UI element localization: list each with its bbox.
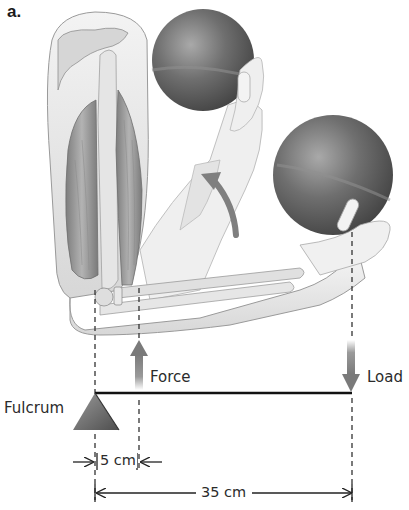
fulcrum-label: Fulcrum [4, 399, 64, 417]
fulcrum-triangle-icon [73, 393, 119, 430]
load-label: Load [367, 368, 403, 386]
raised-forearm [140, 101, 262, 300]
fulcrum-to-force-distance: 5 cm [99, 452, 137, 468]
force-label: Force [150, 368, 191, 386]
upper-arm [47, 12, 148, 298]
ball-held [273, 115, 393, 235]
force-arrow-icon [130, 340, 148, 390]
fulcrum-to-load-distance: 35 cm [199, 484, 248, 500]
load-arrow-icon [342, 340, 360, 392]
lever-arm-illustration [0, 0, 409, 510]
